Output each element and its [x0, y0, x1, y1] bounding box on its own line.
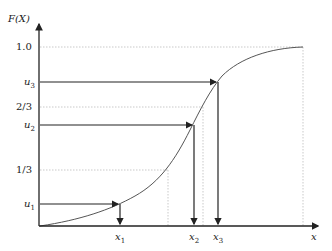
label-u3: u3	[24, 76, 35, 90]
sample-1-arrows	[40, 204, 120, 224]
cdf-diagram: F(X) 1.0 2/3 1/3 u3 u2 u1 x1 x2 x3 x	[0, 0, 332, 251]
tick-1-3: 1/3	[16, 164, 32, 175]
x-axis-label: x	[311, 231, 317, 242]
y-axis-label: F(X)	[7, 13, 30, 24]
sample-3-arrows	[40, 82, 218, 224]
label-x2: x2	[189, 231, 199, 245]
cdf-curve	[40, 47, 303, 226]
label-x3: x3	[213, 231, 223, 245]
label-x1: x1	[115, 231, 125, 245]
label-u1: u1	[24, 198, 35, 212]
guide-lines	[40, 47, 303, 226]
sample-2-arrows	[40, 125, 194, 224]
tick-2-3: 2/3	[16, 101, 32, 112]
label-u2: u2	[24, 119, 35, 133]
tick-1-0: 1.0	[16, 41, 32, 52]
